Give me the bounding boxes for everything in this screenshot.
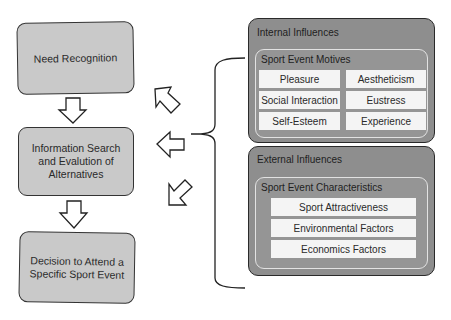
motive-self-esteem: Self-Esteem (259, 112, 340, 130)
diagram-canvas: Need Recognition Information Search and … (0, 0, 451, 320)
motive-eustress: Eustress (346, 91, 426, 109)
panel-title: External Influences (257, 154, 342, 165)
motive-social-interaction: Social Interaction (259, 91, 340, 109)
group-title: Sport Event Characteristics (261, 182, 382, 193)
external-influences-panel: External Influences Sport Event Characte… (248, 146, 435, 276)
characteristic-sport-attractiveness: Sport Attractiveness (271, 198, 416, 216)
down-left-arrow-icon (169, 180, 192, 205)
characteristic-environmental-factors: Environmental Factors (271, 219, 416, 237)
curly-bracket (191, 58, 245, 288)
down-arrow-icon (60, 201, 87, 228)
sport-event-characteristics-group: Sport Event Characteristics Sport Attrac… (255, 177, 428, 269)
motive-aestheticism: Aestheticism (346, 70, 426, 88)
motive-pleasure: Pleasure (259, 70, 340, 88)
characteristic-economics-factors: Economics Factors (271, 240, 416, 258)
motive-experience: Experience (346, 112, 426, 130)
sport-event-motives-group: Sport Event Motives Pleasure Aestheticis… (255, 49, 428, 138)
up-left-arrow-icon (155, 87, 180, 113)
internal-influences-panel: Internal Influences Sport Event Motives … (248, 18, 435, 143)
left-arrow-icon (157, 132, 184, 157)
group-title: Sport Event Motives (261, 54, 350, 65)
panel-title: Internal Influences (257, 27, 339, 38)
down-arrow-icon (59, 98, 86, 123)
